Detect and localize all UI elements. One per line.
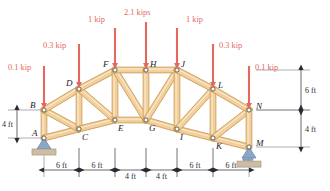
joint-label-E: E	[117, 123, 124, 133]
truss-member	[246, 108, 252, 150]
left-dimension-label: 4 ft	[2, 120, 14, 129]
bottom-dimension-label: 6 ft	[226, 161, 238, 170]
joint-pin-H	[144, 68, 148, 72]
joint-pin-I	[175, 127, 179, 131]
joint-pin-J	[175, 68, 179, 72]
bottom-dimension-label: 6 ft	[92, 161, 104, 170]
truss-canvas: ABCDEFGHIJKLMN 0.1 kip0.3 kip1 kip2.1 ki…	[0, 0, 330, 191]
right-dimension-label: 4 ft	[305, 125, 317, 134]
joint-pin-A	[42, 136, 46, 140]
joint-label-F: F	[102, 59, 109, 69]
joint-label-A: A	[31, 128, 38, 138]
bottom-dimension-label: 4 ft	[125, 172, 137, 181]
joint-pin-N	[247, 108, 251, 112]
load-label-B: 0.1 kip	[8, 63, 31, 72]
load-label-N: 0.1 kip	[255, 63, 278, 72]
joint-label-D: D	[65, 78, 73, 88]
load-label-D: 0.3 kip	[43, 41, 66, 50]
roller-support-M	[237, 147, 261, 167]
joint-label-H: H	[149, 59, 157, 69]
joint-pin-D	[77, 87, 81, 91]
load-label-F: 1 kip	[88, 15, 105, 24]
joint-label-K: K	[215, 141, 223, 151]
joint-pin-M	[247, 145, 251, 149]
joint-pin-C	[77, 127, 81, 131]
pin-support-A	[32, 138, 56, 155]
load-labels: 0.1 kip0.3 kip1 kip2.1 kips1 kip0.3 kip0…	[8, 8, 278, 72]
joint-label-J: J	[181, 59, 186, 69]
joint-label-C: C	[82, 132, 89, 142]
joint-label-L: L	[217, 80, 223, 90]
right-dimension-label: 6 ft	[305, 86, 317, 95]
bottom-dimension-label: 6 ft	[56, 161, 68, 170]
joint-pin-L	[211, 87, 215, 91]
joint-pin-E	[113, 118, 117, 122]
joint-label-M: M	[255, 138, 264, 148]
bottom-dimension-label: 4 ft	[156, 172, 168, 181]
load-label-H: 2.1 kips	[124, 8, 151, 17]
load-label-L: 0.3 kip	[219, 41, 242, 50]
truss-diagram: ABCDEFGHIJKLMN 0.1 kip0.3 kip1 kip2.1 ki…	[0, 0, 330, 191]
bottom-dimension-label: 6 ft	[190, 161, 202, 170]
joint-pin-K	[211, 136, 215, 140]
joint-label-B: B	[30, 100, 36, 110]
joint-label-G: G	[149, 123, 156, 133]
joint-label-N: N	[255, 101, 263, 111]
joint-pin-F	[113, 68, 117, 72]
joint-pin-G	[144, 118, 148, 122]
joint-pin-B	[42, 108, 46, 112]
load-label-J: 1 kip	[186, 15, 203, 24]
